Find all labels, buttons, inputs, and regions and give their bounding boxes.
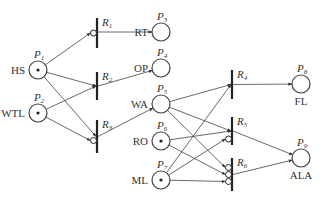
place-label: HS xyxy=(11,64,25,76)
token-icon xyxy=(36,111,39,114)
inhibitor-arc xyxy=(46,117,90,140)
places-layer: P1HSP2WTLP3RTP4OPP5WAP6ROP7MLP8FLP9ALA xyxy=(1,10,312,189)
token-icon xyxy=(36,68,39,71)
place-label: ALA xyxy=(290,169,313,181)
place-label: FL xyxy=(295,95,308,107)
place-id: P7 xyxy=(156,158,168,172)
place-label: ML xyxy=(132,174,149,186)
place-circle xyxy=(292,149,310,167)
place-p9: P9ALA xyxy=(290,136,313,181)
inhibitor-circle-icon xyxy=(226,172,232,178)
place-label: OP xyxy=(134,62,148,74)
place-p8: P8FL xyxy=(292,62,310,107)
place-p5: P5WA xyxy=(131,82,170,113)
input-arc xyxy=(170,131,231,140)
place-id: P9 xyxy=(296,136,308,150)
place-p2: P2WTL xyxy=(1,91,47,122)
place-id: P1 xyxy=(33,48,44,62)
transition-id: R5 xyxy=(236,115,248,129)
input-arc xyxy=(166,85,231,173)
transition-id: R6 xyxy=(236,156,248,170)
input-arc xyxy=(46,86,96,109)
place-id: P3 xyxy=(156,10,168,24)
input-arc xyxy=(47,72,96,86)
inhibitor-arc xyxy=(170,180,225,181)
place-label: WTL xyxy=(1,107,25,119)
place-id: P5 xyxy=(156,82,168,96)
place-id: P6 xyxy=(156,119,168,133)
place-label: WA xyxy=(131,98,148,110)
inhibitor-arc xyxy=(169,145,225,174)
place-label: RO xyxy=(133,135,148,147)
token-icon xyxy=(159,178,162,181)
place-id: P8 xyxy=(296,62,308,76)
transition-id: R3 xyxy=(101,118,113,132)
input-arc xyxy=(170,85,231,102)
transition-r6: R6 xyxy=(232,156,248,191)
place-circle xyxy=(152,59,170,77)
transition-id: R4 xyxy=(236,68,248,82)
place-circle xyxy=(292,75,310,93)
output-arc xyxy=(233,131,293,155)
inhibitor-arc xyxy=(45,33,90,65)
inhibitor-circle-icon xyxy=(226,179,232,185)
transition-id: R2 xyxy=(101,70,113,84)
transition-r5: R5 xyxy=(232,115,248,145)
place-p4: P4OP xyxy=(134,46,170,77)
inhibitor-circle-icon xyxy=(91,30,97,36)
place-p1: P1HS xyxy=(11,48,47,79)
place-id: P2 xyxy=(33,91,45,105)
token-icon xyxy=(159,139,162,142)
place-label: RT xyxy=(135,26,149,38)
petri-net-diagram: R1R2R3R4R5R6 P1HSP2WTLP3RTP4OPP5WAP6ROP7… xyxy=(0,0,326,202)
place-id: P4 xyxy=(156,46,168,60)
input-arc xyxy=(169,107,231,131)
place-p3: P3RT xyxy=(135,10,170,41)
inhibitor-circle-icon xyxy=(91,138,97,144)
transition-id: R1 xyxy=(101,16,112,30)
transition-r2: R2 xyxy=(97,70,113,100)
place-circle xyxy=(152,95,170,113)
transition-r4: R4 xyxy=(232,68,248,99)
place-p7: P7ML xyxy=(132,158,171,189)
inhibitor-circle-icon xyxy=(226,136,232,142)
place-circle xyxy=(152,23,170,41)
place-p6: P6RO xyxy=(133,119,170,150)
inhibitor-circle-icon xyxy=(226,165,232,171)
